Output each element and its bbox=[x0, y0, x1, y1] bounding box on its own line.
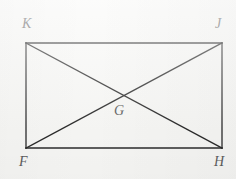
vertex-label-J: J bbox=[215, 17, 221, 31]
diagram-canvas bbox=[0, 0, 236, 179]
geometry-figure: K J G F H bbox=[0, 0, 236, 179]
vertex-label-F: F bbox=[19, 155, 28, 169]
diagonals bbox=[26, 43, 222, 148]
vertex-label-K: K bbox=[22, 17, 32, 31]
vertex-label-H: H bbox=[214, 155, 224, 169]
vertex-label-G: G bbox=[114, 104, 124, 118]
